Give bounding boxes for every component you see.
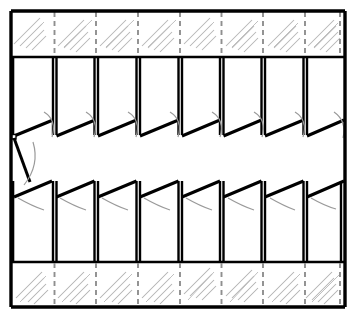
paper-background bbox=[0, 0, 357, 317]
technical-drawing-svg bbox=[0, 0, 357, 317]
drawing-canvas bbox=[0, 0, 357, 317]
